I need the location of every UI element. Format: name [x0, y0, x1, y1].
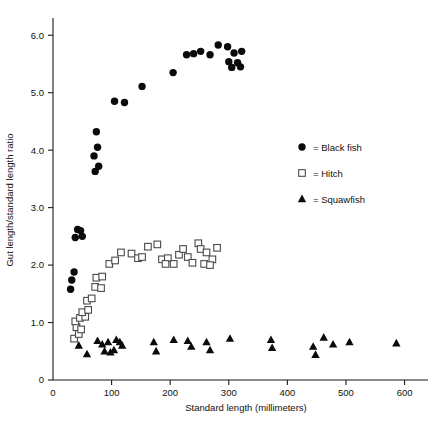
- data-point-circle-12: [111, 98, 118, 105]
- data-point-square-30: [189, 259, 196, 266]
- series-hitch: [71, 240, 221, 342]
- data-point-triangle-12: [152, 347, 160, 355]
- data-point-square-16: [112, 257, 119, 264]
- data-point-square-28: [180, 246, 187, 253]
- data-point-triangle-23: [320, 333, 328, 341]
- scatter-chart: 01.02.03.04.05.06.00100200300400500600 =…: [0, 0, 444, 421]
- data-point-square-18: [128, 250, 135, 257]
- data-point-square-36: [207, 262, 214, 269]
- data-point-triangle-21: [309, 342, 317, 350]
- x-axis-title: Standard length (millimeters): [185, 402, 306, 413]
- data-point-circle-24: [228, 64, 235, 71]
- data-point-square-26: [170, 261, 177, 268]
- data-point-circle-10: [94, 144, 101, 151]
- x-tick-label-600: 600: [397, 387, 413, 398]
- x-tick-label-200: 200: [162, 387, 178, 398]
- y-tick-label-4.0: 4.0: [31, 145, 44, 156]
- data-point-triangle-25: [345, 338, 353, 346]
- series-black-fish: [67, 41, 245, 293]
- data-point-square-8: [85, 307, 92, 314]
- x-tick-label-500: 500: [338, 387, 354, 398]
- data-point-triangle-5: [104, 338, 112, 346]
- legend-label-triangle: = Squawfish: [313, 194, 365, 205]
- data-point-triangle-2: [93, 337, 101, 345]
- y-axis-title: Gut length/standard length ratio: [4, 133, 15, 266]
- data-point-triangle-19: [267, 335, 275, 343]
- data-point-square-33: [203, 249, 210, 256]
- data-point-triangle-22: [311, 350, 319, 358]
- data-point-triangle-14: [184, 337, 192, 345]
- axes: [53, 18, 428, 380]
- data-point-circle-11: [93, 128, 100, 135]
- data-point-legend-triangle: [298, 195, 306, 203]
- data-point-triangle-13: [170, 335, 178, 343]
- legend: = Black fish= Hitch= Squawfish: [298, 142, 365, 205]
- data-point-circle-6: [67, 286, 74, 293]
- data-point-triangle-24: [329, 340, 337, 348]
- data-point-triangle-1: [83, 350, 91, 358]
- y-tick-label-5.0: 5.0: [31, 87, 44, 98]
- data-point-circle-25: [237, 63, 244, 70]
- data-point-circle-17: [206, 51, 213, 58]
- data-point-square-12: [98, 285, 105, 292]
- data-point-circle-15: [169, 69, 176, 76]
- plot-canvas: 01.02.03.04.05.06.00100200300400500600 =…: [0, 0, 444, 421]
- data-point-circle-26: [190, 50, 197, 57]
- data-point-triangle-26: [392, 339, 400, 347]
- x-tick-label-100: 100: [104, 387, 120, 398]
- data-point-circle-21: [238, 48, 245, 55]
- legend-label-square: = Hitch: [313, 168, 343, 179]
- x-tick-label-0: 0: [50, 387, 55, 398]
- tick-labels: 01.02.03.04.05.06.00100200300400500600: [31, 30, 413, 398]
- data-point-legend-circle: [298, 143, 305, 150]
- data-point-square-14: [99, 273, 106, 280]
- data-point-square-21: [145, 243, 152, 250]
- data-point-circle-5: [68, 276, 75, 283]
- x-tick-label-400: 400: [279, 387, 295, 398]
- data-point-square-37: [214, 245, 221, 252]
- data-point-square-22: [154, 241, 161, 248]
- data-point-circle-14: [138, 83, 145, 90]
- tick-marks: [48, 35, 405, 385]
- data-point-triangle-18: [226, 334, 234, 342]
- data-point-circle-13: [121, 99, 128, 106]
- x-tick-label-300: 300: [221, 387, 237, 398]
- data-point-circle-4: [70, 268, 77, 275]
- data-point-circle-27: [183, 51, 190, 58]
- data-point-square-20: [139, 254, 146, 261]
- data-point-circle-3: [77, 227, 84, 234]
- data-point-circle-1: [72, 234, 79, 241]
- data-point-square-3: [78, 326, 85, 333]
- data-point-square-25: [162, 261, 169, 268]
- y-tick-label-2.0: 2.0: [31, 259, 44, 270]
- data-point-circle-19: [224, 43, 231, 50]
- y-tick-label-0: 0: [39, 374, 44, 385]
- data-point-triangle-17: [206, 346, 214, 354]
- y-tick-label-6.0: 6.0: [31, 30, 44, 41]
- data-point-circle-8: [90, 152, 97, 159]
- data-point-legend-square: [299, 170, 306, 177]
- data-point-circle-18: [215, 41, 222, 48]
- data-point-triangle-20: [268, 343, 276, 351]
- y-tick-label-3.0: 3.0: [31, 202, 44, 213]
- data-point-triangle-11: [150, 338, 158, 346]
- data-point-square-10: [88, 295, 95, 302]
- legend-label-circle: = Black fish: [313, 142, 362, 153]
- data-point-square-17: [118, 249, 125, 256]
- data-point-circle-20: [230, 49, 237, 56]
- series-squawfish: [75, 333, 401, 358]
- data-point-circle-9: [95, 163, 102, 170]
- data-point-circle-16: [197, 48, 204, 55]
- data-point-triangle-4: [100, 347, 108, 355]
- y-tick-label-1.0: 1.0: [31, 317, 44, 328]
- data-point-triangle-16: [202, 338, 210, 346]
